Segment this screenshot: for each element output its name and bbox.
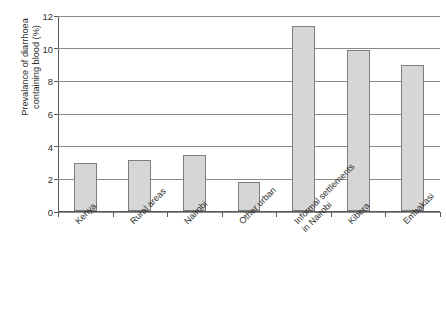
cut-off-title-remnant: · · · <box>96 0 376 2</box>
bar-chart-figure: · · · Prevalance of diarrhoea containing… <box>0 0 446 321</box>
gridline <box>58 48 440 49</box>
x-tick-mark <box>440 212 441 217</box>
y-tick-mark <box>54 114 58 115</box>
y-tick-label: 4 <box>48 141 53 152</box>
y-tick-label: 0 <box>48 207 53 218</box>
y-tick-label: 6 <box>48 109 53 120</box>
gridline <box>58 81 440 82</box>
y-tick-label: 12 <box>43 11 53 22</box>
y-axis-title: Prevalance of diarrhoea containing blood… <box>20 0 46 152</box>
plot-area: 024681012 <box>58 16 440 212</box>
y-tick-mark <box>54 81 58 82</box>
y-tick-label: 8 <box>48 76 53 87</box>
y-tick-mark <box>54 16 58 17</box>
x-tick-mark <box>331 212 332 217</box>
x-tick-mark <box>58 212 59 217</box>
y-tick-mark <box>54 146 58 147</box>
x-tick-mark <box>113 212 114 217</box>
y-tick-label: 10 <box>43 43 53 54</box>
y-tick-mark <box>54 179 58 180</box>
x-tick-mark <box>385 212 386 217</box>
bar[interactable] <box>401 65 424 211</box>
gridline <box>58 179 440 180</box>
x-tick-mark <box>222 212 223 217</box>
y-tick-label: 2 <box>48 174 53 185</box>
bar[interactable] <box>292 26 315 211</box>
x-tick-mark <box>276 212 277 217</box>
gridline <box>58 114 440 115</box>
gridline <box>58 146 440 147</box>
y-tick-mark <box>54 48 58 49</box>
x-axis-labels: KenyaRural areasNairobiOther urbanInform… <box>58 219 440 319</box>
gridline <box>58 16 440 17</box>
x-tick-mark <box>167 212 168 217</box>
